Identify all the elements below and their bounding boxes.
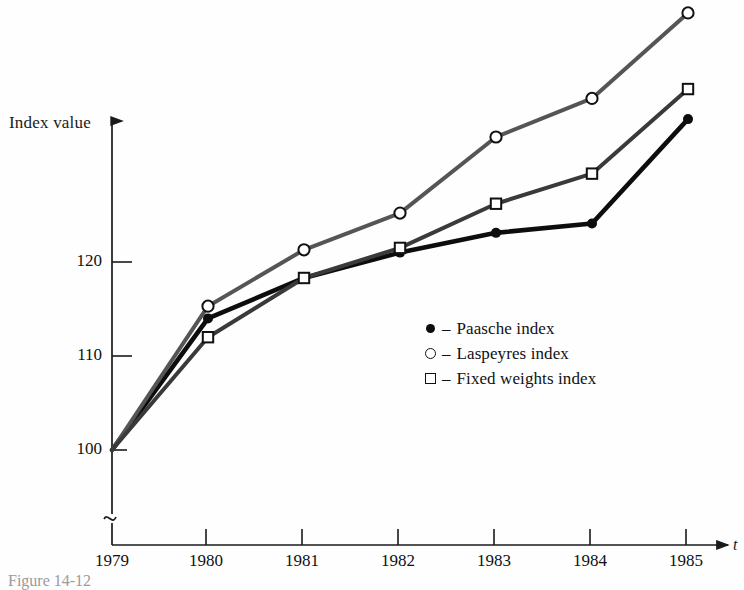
legend-item-paasche: – Paasche index (420, 316, 670, 341)
series-line (112, 119, 688, 450)
y-axis (104, 121, 132, 545)
legend-label-fixed-weights: Fixed weights index (457, 369, 597, 389)
series-line (112, 89, 688, 450)
data-point (394, 208, 405, 219)
data-point (202, 301, 213, 312)
legend-item-fixed-weights: – Fixed weights index (420, 366, 670, 391)
legend-separator: – (440, 369, 457, 389)
series-fixed-weights-index (112, 84, 693, 450)
data-point (203, 332, 213, 342)
open-square-icon (420, 373, 440, 384)
series-paasche-index (112, 114, 693, 450)
legend-item-laspeyres: – Laspeyres index (420, 341, 670, 366)
y-tick-label-100: 100 (56, 439, 102, 459)
data-point (491, 228, 501, 238)
y-axis-title: Index value (9, 113, 91, 133)
chart-page: Index value t 120 110 100 1979 1980 1981… (0, 0, 744, 590)
data-point (587, 168, 597, 178)
legend-label-laspeyres: Laspeyres index (457, 344, 569, 364)
legend-label-paasche: Paasche index (457, 319, 555, 339)
data-point (586, 93, 597, 104)
x-tick-label-1981: 1981 (267, 551, 337, 571)
data-point (683, 84, 693, 94)
y-tick-label-110: 110 (56, 345, 102, 365)
x-axis-title: t (733, 536, 738, 554)
data-point (491, 199, 501, 209)
legend-separator: – (440, 319, 457, 339)
axis-break-icon (104, 517, 116, 520)
index-comparison-line-chart (0, 0, 744, 590)
x-tick-label-1983: 1983 (459, 551, 529, 571)
data-point (298, 244, 309, 255)
legend-separator: – (440, 344, 457, 364)
data-point (395, 243, 405, 253)
x-axis (112, 529, 728, 545)
open-circle-icon (420, 348, 440, 359)
x-tick-label-1982: 1982 (363, 551, 433, 571)
x-tick-label-1979: 1979 (77, 551, 147, 571)
data-point (299, 273, 309, 283)
data-point (587, 218, 597, 228)
x-tick-label-1980: 1980 (171, 551, 241, 571)
chart-legend: – Paasche index – Laspeyres index – Fixe… (420, 316, 670, 391)
data-point (683, 114, 693, 124)
filled-circle-icon (420, 324, 440, 333)
data-point (682, 7, 693, 18)
x-tick-label-1985: 1985 (651, 551, 721, 571)
x-tick-label-1984: 1984 (555, 551, 625, 571)
figure-caption: Figure 14-12 (8, 572, 91, 590)
y-tick-label-120: 120 (56, 251, 102, 271)
data-point (490, 131, 501, 142)
